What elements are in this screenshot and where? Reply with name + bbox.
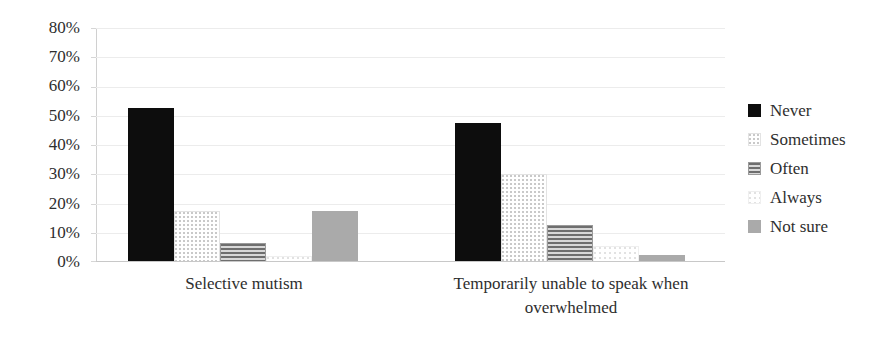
y-tick-label: 40%	[49, 136, 80, 153]
legend-swatch-not-sure-icon	[748, 220, 761, 233]
bar-always-temporarily-unable	[593, 246, 639, 262]
x-axis-labels: Selective mutism Temporarily unable to s…	[96, 272, 725, 334]
legend-swatch-never-icon	[748, 104, 761, 117]
legend-item-not-sure: Not sure	[748, 212, 893, 241]
bar-sometimes-temporarily-unable	[501, 174, 547, 262]
legend-item-often: Often	[748, 154, 893, 183]
y-tick-label: 0%	[57, 253, 80, 270]
bar-chart: 80% 70% 60% 50% 40% 30% 20% 10% 0%	[0, 0, 895, 341]
legend-item-always: Always	[748, 183, 893, 212]
x-category-line: Selective mutism	[116, 272, 372, 296]
bar-often-selective-mutism	[220, 243, 266, 262]
bar-sometimes-selective-mutism	[174, 211, 220, 262]
x-category-label-selective-mutism: Selective mutism	[116, 272, 372, 296]
bar-not-sure-selective-mutism	[312, 211, 358, 262]
x-category-line: overwhelmed	[426, 296, 716, 320]
legend-label: Often	[770, 160, 809, 177]
legend-label: Sometimes	[770, 131, 846, 148]
y-tick-label: 20%	[49, 195, 80, 212]
plot-area	[96, 28, 725, 262]
bar-never-temporarily-unable	[455, 123, 501, 262]
x-axis-line	[96, 261, 725, 262]
bar-often-temporarily-unable	[547, 225, 593, 262]
legend-item-sometimes: Sometimes	[748, 125, 893, 154]
y-tick-label: 50%	[49, 107, 80, 124]
bars-layer	[96, 28, 725, 262]
legend-swatch-often-icon	[748, 162, 761, 175]
legend-label: Not sure	[770, 218, 828, 235]
y-tick-label: 30%	[49, 165, 80, 182]
legend-swatch-sometimes-icon	[748, 133, 761, 146]
legend-label: Always	[770, 189, 822, 206]
x-category-line: Temporarily unable to speak when	[426, 272, 716, 296]
legend-swatch-always-icon	[748, 191, 761, 204]
bar-never-selective-mutism	[128, 108, 174, 262]
chart-legend: Never Sometimes Often Always Not sure	[748, 96, 893, 241]
x-category-label-temporarily-unable: Temporarily unable to speak when overwhe…	[426, 272, 716, 320]
y-tick-label: 70%	[49, 48, 80, 65]
y-tick-label: 10%	[49, 224, 80, 241]
legend-item-never: Never	[748, 96, 893, 125]
y-axis: 80% 70% 60% 50% 40% 30% 20% 10% 0%	[0, 0, 88, 341]
y-tick-label: 60%	[49, 77, 80, 94]
legend-label: Never	[770, 102, 812, 119]
y-tick-label: 80%	[49, 19, 80, 36]
